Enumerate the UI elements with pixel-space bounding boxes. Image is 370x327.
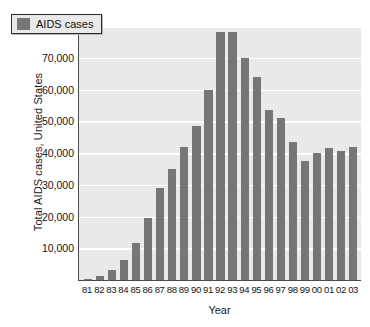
- bar-slot: [82, 26, 94, 280]
- bar-slot: [275, 26, 287, 280]
- y-axis-tick-label: 50,000: [24, 115, 74, 127]
- bar-slot: [323, 26, 335, 280]
- bar: [108, 270, 116, 280]
- y-axis-tick-label: 40,000: [24, 147, 74, 159]
- bar-slot: [190, 26, 202, 280]
- bar-slot: [154, 26, 166, 280]
- x-axis-tick-label: 83: [105, 284, 117, 295]
- bar-slot: [299, 26, 311, 280]
- bar-slot: [202, 26, 214, 280]
- x-axis-tick-label: 99: [299, 284, 311, 295]
- bar: [349, 147, 357, 280]
- legend-label-aids-cases: AIDS cases: [36, 18, 93, 30]
- bar-slot: [166, 26, 178, 280]
- bar: [289, 142, 297, 280]
- bar: [84, 279, 92, 280]
- bar-slot: [130, 26, 142, 280]
- aids-cases-bar-chart: Total AIDS cases, United States 10,00020…: [0, 0, 370, 327]
- y-axis-tick-label: 10,000: [24, 242, 74, 254]
- bar-slot: [347, 26, 359, 280]
- x-axis-tick-label: 84: [117, 284, 129, 295]
- x-axis-tick-label: 01: [323, 284, 335, 295]
- x-axis-tick-label: 94: [238, 284, 250, 295]
- bar-slot: [178, 26, 190, 280]
- bar: [216, 32, 224, 280]
- x-axis-tick-label: 81: [81, 284, 93, 295]
- x-axis-tick-label: 03: [347, 284, 359, 295]
- bar-slot: [215, 26, 227, 280]
- bar-slot: [106, 26, 118, 280]
- x-axis-tick-label: 95: [250, 284, 262, 295]
- bar: [192, 126, 200, 280]
- x-axis-tick-label: 91: [202, 284, 214, 295]
- x-axis-tick-label: 00: [311, 284, 323, 295]
- bar: [325, 148, 333, 280]
- bar: [265, 110, 273, 280]
- bar-slot: [251, 26, 263, 280]
- bar: [156, 188, 164, 280]
- bar: [337, 151, 345, 280]
- x-axis-tick-label: 90: [190, 284, 202, 295]
- bar: [241, 58, 249, 280]
- bar: [180, 147, 188, 280]
- plot-area: [78, 26, 361, 281]
- x-axis-tick-labels: 8182838485868788899091929394959697989900…: [78, 284, 361, 295]
- bar: [204, 90, 212, 281]
- bar-slot: [311, 26, 323, 280]
- x-axis-tick-label: 98: [287, 284, 299, 295]
- x-axis-tick-label: 97: [275, 284, 287, 295]
- x-axis-tick-label: 93: [226, 284, 238, 295]
- y-axis-tick-labels: 10,00020,00030,00040,00050,00060,00070,0…: [24, 26, 74, 280]
- bar-slot: [335, 26, 347, 280]
- bar-slot: [263, 26, 275, 280]
- bar: [132, 243, 140, 280]
- x-axis-tick-label: 89: [178, 284, 190, 295]
- x-axis-tick-label: 96: [262, 284, 274, 295]
- bar: [96, 276, 104, 280]
- legend-swatch-aids-cases: [17, 18, 30, 30]
- y-axis-tick-label: 30,000: [24, 179, 74, 191]
- bar: [253, 77, 261, 280]
- y-axis-tick-label: 60,000: [24, 84, 74, 96]
- bar-slot: [118, 26, 130, 280]
- x-axis-tick-label: 92: [214, 284, 226, 295]
- bar-slot: [94, 26, 106, 280]
- x-axis-tick-label: 88: [166, 284, 178, 295]
- bar: [168, 169, 176, 280]
- bar-slot: [239, 26, 251, 280]
- x-axis-title: Year: [78, 304, 361, 316]
- bars-layer: [79, 26, 361, 280]
- bar-slot: [142, 26, 154, 280]
- bar: [144, 218, 152, 280]
- bar-slot: [287, 26, 299, 280]
- bar-slot: [227, 26, 239, 280]
- x-axis-tick-label: 86: [141, 284, 153, 295]
- bar: [228, 32, 236, 280]
- bar: [277, 118, 285, 280]
- x-axis-tick-label: 82: [93, 284, 105, 295]
- bar: [120, 260, 128, 280]
- y-axis-tick-label: 70,000: [24, 52, 74, 64]
- bar: [301, 161, 309, 280]
- x-axis-tick-label: 02: [335, 284, 347, 295]
- x-axis-tick-label: 85: [129, 284, 141, 295]
- x-axis-tick-label: 87: [154, 284, 166, 295]
- bar: [313, 153, 321, 280]
- chart-legend: AIDS cases: [11, 14, 102, 34]
- y-axis-tick-label: 20,000: [24, 211, 74, 223]
